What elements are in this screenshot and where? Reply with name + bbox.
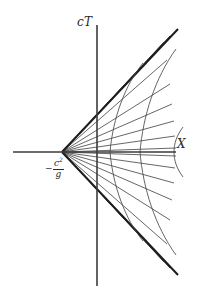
ray-upper-4 [62, 104, 172, 152]
apex-denominator: g [55, 170, 63, 180]
vertical-axis-label: cT [77, 16, 92, 28]
apex-numerator: c2 [53, 157, 64, 169]
apex-fraction: c2 g [53, 157, 64, 179]
horizontal-axis-label: X [177, 138, 186, 150]
apex-label: − c2 g [45, 157, 64, 179]
spacetime-diagram-figure: cT X − c2 g [0, 0, 199, 300]
ray-lower-3 [62, 152, 174, 183]
asymptote-upper [62, 29, 178, 152]
ray-upper-6 [62, 60, 167, 152]
ray-lower-6 [62, 152, 167, 244]
ray-lower-4 [62, 152, 172, 200]
ray-upper-3 [62, 121, 174, 152]
asymptote-lower [62, 152, 178, 275]
apex-numerator-exponent: 2 [59, 156, 63, 163]
diagram-canvas [0, 0, 199, 300]
apex-minus-sign: − [45, 164, 53, 173]
